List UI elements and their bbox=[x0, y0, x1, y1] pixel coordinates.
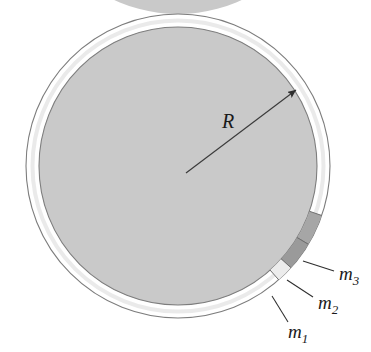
mass-label-m2-base: m bbox=[318, 292, 332, 313]
leader-line-m1 bbox=[272, 296, 288, 322]
mass-label-m2-subscript: 2 bbox=[332, 302, 339, 317]
mass-label-m2: m2 bbox=[318, 292, 339, 317]
ring-diagram: R m3 m2 m1 bbox=[0, 0, 371, 352]
radius-label: R bbox=[221, 110, 234, 132]
mass-label-m3-subscript: 3 bbox=[352, 273, 359, 288]
mass-label-m3: m3 bbox=[339, 263, 359, 288]
mass-label-m3-base: m bbox=[339, 263, 353, 284]
leader-line-m2 bbox=[287, 280, 313, 297]
mass-label-m1: m1 bbox=[288, 321, 308, 346]
mass-label-m1-subscript: 1 bbox=[302, 331, 308, 346]
leader-line-m3 bbox=[303, 261, 334, 271]
mass-labels-group: m3 m2 m1 bbox=[288, 263, 359, 346]
mass-label-m1-base: m bbox=[288, 321, 302, 342]
figure-container: R m3 m2 m1 bbox=[0, 0, 371, 352]
